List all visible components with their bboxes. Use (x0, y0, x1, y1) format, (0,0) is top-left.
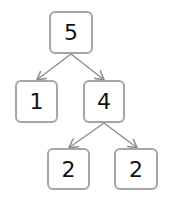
node-right-right: 2 (114, 148, 158, 190)
node-right-left: 2 (47, 148, 90, 190)
edge-right-rightright (104, 123, 136, 147)
node-right: 4 (83, 80, 125, 123)
edge-root-right (71, 54, 103, 79)
edge-right-rightleft (70, 123, 104, 147)
node-root: 5 (49, 11, 93, 54)
node-left: 1 (15, 80, 58, 123)
edge-root-left (38, 54, 71, 79)
